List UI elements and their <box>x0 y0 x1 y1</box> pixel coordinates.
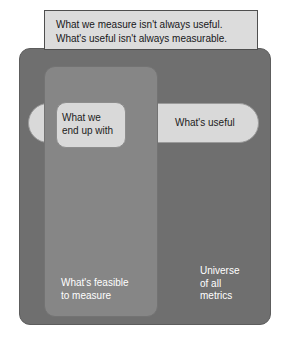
metrics-venn-diagram: What's useful What we end up with What's… <box>0 0 303 342</box>
caption-text: What we measure isn't always useful. Wha… <box>56 18 254 46</box>
region-label-what-we-end-up-with: What we end up with <box>62 112 128 137</box>
region-label-universe-of-all-metrics: Universe of all metrics <box>200 265 272 303</box>
region-label-whats-feasible-to-measure: What's feasible to measure <box>61 277 157 302</box>
region-label-whats-useful: What's useful <box>175 117 235 129</box>
